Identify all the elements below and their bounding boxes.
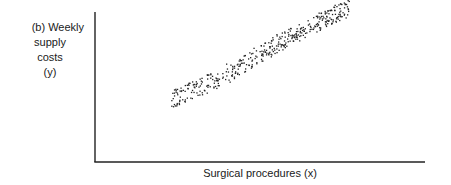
data-point [185,91,186,92]
data-point [177,94,178,95]
data-point [285,42,286,43]
data-point [239,74,240,75]
data-point [264,49,265,50]
data-point [176,105,177,106]
data-point [297,31,298,32]
data-point [290,30,291,31]
data-point [319,13,320,14]
data-point [328,13,329,14]
data-point [187,88,188,89]
data-point [217,78,218,79]
data-point [234,77,235,78]
data-point [201,78,202,79]
data-point [197,95,198,96]
data-point [266,53,267,54]
data-point [243,59,244,60]
data-point [327,11,328,12]
data-point [237,64,238,65]
data-point [320,17,321,18]
data-point [215,86,216,87]
data-point [269,47,270,48]
data-point [238,66,239,67]
data-point [299,40,300,41]
data-point [232,67,233,68]
data-point [174,93,175,94]
data-point [326,25,327,26]
x-axis-label: Surgical procedures (x) [95,167,425,179]
data-point [192,81,193,82]
data-point [256,63,257,64]
data-point [273,51,274,52]
data-point [269,53,270,54]
data-point [182,99,183,100]
data-point [348,0,349,1]
data-point [207,78,208,79]
data-point [334,10,335,11]
data-point [187,85,188,86]
data-point [288,36,289,37]
data-point [207,93,208,94]
data-point [313,29,314,30]
data-point [348,9,349,10]
data-point [217,80,218,81]
data-point [207,85,208,86]
data-point [230,65,231,66]
data-point [263,51,264,52]
data-point [244,71,245,72]
data-point [252,53,253,54]
data-point [263,45,264,46]
data-point [274,53,275,54]
data-point [335,14,336,15]
data-point [210,73,211,74]
data-point [253,48,254,49]
data-point [339,20,340,21]
data-point [303,27,304,28]
data-point [200,79,201,80]
data-point [260,51,261,52]
data-point [314,25,315,26]
data-point [309,23,310,24]
data-point [285,37,286,38]
data-point [180,97,181,98]
data-point [299,36,300,37]
data-point [334,7,335,8]
data-point [212,79,213,80]
data-point [336,18,337,19]
data-point [232,71,233,72]
data-point [294,37,295,38]
data-point [347,6,348,7]
data-point [271,40,272,41]
data-point [272,46,273,47]
data-point [329,17,330,18]
data-point [305,33,306,34]
data-point [194,87,195,88]
data-point [226,75,227,76]
data-point [193,84,194,85]
data-point [326,26,327,27]
data-point [261,55,262,56]
data-point [251,68,252,69]
data-point [174,89,175,90]
data-point [192,98,193,99]
data-point [208,74,209,75]
data-point [282,49,283,50]
data-point [216,88,217,89]
data-point [199,91,200,92]
data-point [280,38,281,39]
data-point [283,45,284,46]
data-point [282,36,283,37]
data-point [261,51,262,52]
data-point [322,20,323,21]
data-point [266,50,267,51]
data-point [292,35,293,36]
data-point [305,28,306,29]
data-point [279,44,280,45]
data-point [207,74,208,75]
data-point [281,44,282,45]
data-point [228,80,229,81]
data-point [188,85,189,86]
data-point [341,4,342,5]
data-point [179,104,180,105]
data-point [302,30,303,31]
data-point [245,55,246,56]
